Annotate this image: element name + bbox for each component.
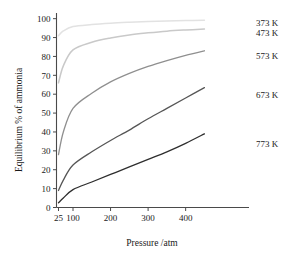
x-tick-label: 200 [104, 213, 118, 223]
y-axis-title: Equilibrium % of ammonia [14, 67, 24, 172]
x-axis-title: Pressure /atm [126, 238, 178, 248]
y-tick-label: 30 [42, 146, 52, 156]
x-tick-label: 300 [141, 213, 155, 223]
x-tick-label: 100 [66, 213, 80, 223]
series-label-673-k: 673 K [256, 90, 279, 100]
series-label-473-k: 473 K [256, 28, 279, 38]
chart-container: 0102030405060708090100 25100200300400 37… [0, 0, 300, 259]
series-label-573-k: 573 K [256, 51, 279, 61]
y-tick-label: 0 [46, 203, 51, 213]
y-tick-label: 80 [42, 52, 52, 62]
series-label-773-k: 773 K [256, 139, 279, 149]
y-tick-label: 40 [42, 127, 52, 137]
axes-group [57, 13, 250, 208]
series-curves [59, 20, 205, 203]
series-curve-673-k [59, 88, 205, 191]
ammonia-equilibrium-chart: 0102030405060708090100 25100200300400 37… [0, 0, 300, 259]
y-tick-label: 10 [42, 184, 52, 194]
y-tick-label: 70 [42, 71, 52, 81]
series-curve-773-k [59, 134, 205, 203]
series-curve-573-k [59, 51, 205, 155]
x-axis-ticks: 25100200300400 [54, 208, 193, 223]
y-tick-label: 100 [37, 14, 51, 24]
x-tick-label: 25 [54, 213, 64, 223]
y-axis-ticks: 0102030405060708090100 [37, 14, 57, 213]
series-curve-373-k [59, 20, 205, 35]
series-label-373-k: 373 K [256, 18, 279, 28]
y-tick-label: 90 [42, 33, 52, 43]
y-tick-label: 50 [42, 108, 52, 118]
y-tick-label: 20 [42, 165, 52, 175]
x-tick-label: 400 [179, 213, 193, 223]
y-tick-label: 60 [42, 89, 52, 99]
series-labels-group: 373 K473 K573 K673 K773 K [256, 18, 279, 150]
